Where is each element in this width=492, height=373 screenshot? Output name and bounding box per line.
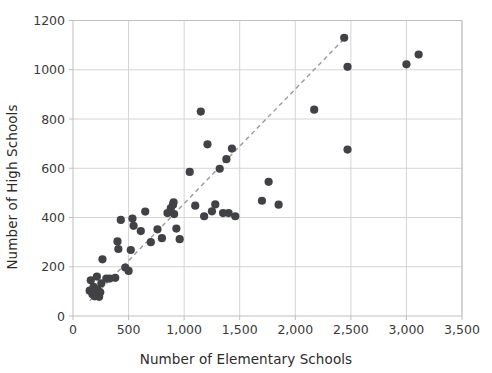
data-point: [415, 50, 423, 58]
y-tick-label: 1000: [33, 62, 65, 77]
scatter-chart: 05001,0001,5002,0002,5003,0003,500 02004…: [0, 0, 492, 373]
y-tick-label: 200: [41, 259, 65, 274]
data-point: [343, 145, 351, 153]
y-tick-label: 600: [41, 161, 65, 176]
data-point: [128, 214, 136, 222]
y-tick-label: 1200: [33, 13, 65, 28]
data-point: [141, 207, 149, 215]
data-point: [275, 201, 283, 209]
data-point: [169, 198, 177, 206]
data-point: [129, 222, 137, 230]
y-axis-title: Number of High Schools: [4, 21, 20, 186]
data-points: [86, 34, 423, 301]
data-point: [343, 63, 351, 71]
data-point: [216, 165, 224, 173]
data-point: [176, 235, 184, 243]
x-tick-labels: 05001,0001,5002,0002,5003,0003,500: [69, 322, 480, 337]
data-point: [200, 212, 208, 220]
x-tick-label: 2,000: [277, 322, 313, 337]
data-point: [231, 212, 239, 220]
data-point: [111, 274, 119, 282]
plot-area: 05001,0001,5002,0002,5003,0003,500 02004…: [0, 0, 492, 373]
data-point: [124, 267, 132, 275]
y-tick-labels: 020040060080010001200: [33, 13, 65, 324]
data-point: [258, 197, 266, 205]
data-point: [186, 168, 194, 176]
data-point: [137, 227, 145, 235]
data-point: [197, 108, 205, 116]
y-tick-label: 400: [41, 210, 65, 225]
data-point: [114, 245, 122, 253]
data-point: [170, 210, 178, 218]
data-point: [147, 238, 155, 246]
y-tick-label: 800: [41, 112, 65, 127]
x-tick-label: 3,000: [389, 322, 425, 337]
data-point: [222, 155, 230, 163]
data-point: [172, 224, 180, 232]
data-point: [211, 200, 219, 208]
data-point: [228, 144, 236, 152]
x-tick-label: 0: [69, 322, 77, 337]
data-point: [96, 288, 104, 296]
x-tick-label: 1,000: [166, 322, 202, 337]
x-tick-label: 2,500: [333, 322, 369, 337]
data-point: [98, 255, 106, 263]
x-tick-label: 1,500: [222, 322, 258, 337]
data-point: [127, 246, 135, 254]
data-point: [153, 225, 161, 233]
y-gridlines: [73, 21, 462, 267]
data-point: [113, 237, 121, 245]
data-point: [340, 34, 348, 42]
x-tick-label: 500: [117, 322, 141, 337]
x-tick-label: 3,500: [444, 322, 480, 337]
x-axis-title: Number of Elementary Schools: [0, 351, 492, 367]
data-point: [402, 60, 410, 68]
data-point: [203, 140, 211, 148]
data-point: [191, 202, 199, 210]
data-point: [117, 216, 125, 224]
y-axis-title-text: Number of High Schools: [4, 104, 20, 269]
y-tick-label: 0: [57, 309, 65, 324]
data-point: [158, 234, 166, 242]
data-point: [310, 106, 318, 114]
data-point: [265, 178, 273, 186]
